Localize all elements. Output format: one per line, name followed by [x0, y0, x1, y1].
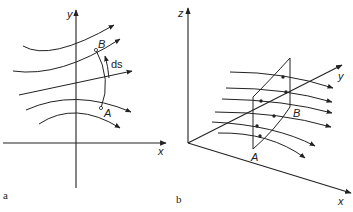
figure-a: y x B A ds a: [3, 8, 166, 201]
figure-b: z y x B A b: [176, 7, 351, 207]
flux-point: [258, 134, 261, 137]
point-b-label: B: [98, 38, 105, 50]
stream-3d-5: [212, 122, 315, 146]
flux-point: [281, 75, 284, 78]
integration-path: [96, 50, 105, 108]
flux-point: [272, 114, 275, 117]
streamline-4: [26, 99, 131, 112]
point-b-label-3d: B: [293, 107, 300, 119]
z-axis-label: z: [177, 7, 184, 19]
y-axis-label: y: [66, 8, 74, 20]
diagram-canvas: y x B A ds a z y x: [0, 0, 353, 212]
stream-3d-3: [222, 99, 332, 113]
y-axis-3d: [188, 65, 342, 143]
point-a-label: A: [103, 107, 111, 119]
point-a-label-3d: A: [250, 151, 258, 163]
flux-point: [259, 99, 262, 102]
x-axis-3d: [188, 143, 351, 193]
flux-point: [284, 90, 287, 93]
ds-label: ds: [111, 58, 123, 70]
x-axis-label-3d: x: [337, 195, 344, 207]
caption-a: a: [3, 189, 8, 201]
flux-point: [255, 124, 258, 127]
y-axis-label-3d: y: [337, 70, 345, 82]
x-axis-label: x: [157, 145, 164, 157]
stream-3d-1: [230, 72, 333, 88]
stream-3d-4: [215, 112, 331, 127]
caption-b: b: [176, 193, 182, 205]
ds-element: [105, 56, 109, 78]
point-a-marker: [99, 106, 102, 109]
